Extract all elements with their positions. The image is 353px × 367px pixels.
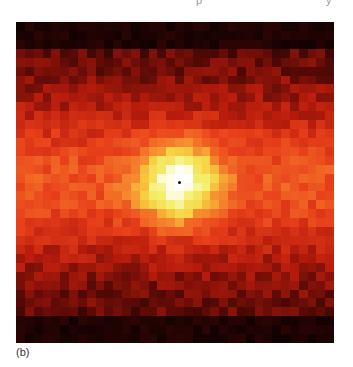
intensity-map-image — [16, 22, 334, 343]
center-marker — [178, 181, 181, 184]
text-fragment: p — [196, 0, 202, 6]
cropped-caption-text: p y — [0, 0, 353, 8]
heatmap-canvas — [16, 22, 334, 343]
text-fragment: y — [326, 0, 332, 6]
panel-label: (b) — [16, 346, 29, 358]
